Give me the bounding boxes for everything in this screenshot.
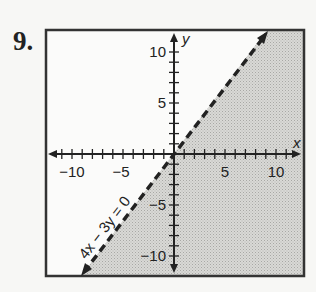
x-tick-label: 10: [268, 163, 285, 180]
inequality-graph: −10 −5 5 10 x: [0, 0, 316, 292]
y-tick-label: −10: [141, 247, 166, 264]
x-tick-label: −5: [112, 163, 129, 180]
x-axis-label: x: [292, 134, 301, 151]
x-tick-label: −10: [59, 163, 84, 180]
y-tick-label: −5: [149, 196, 166, 213]
x-tick-label: 5: [221, 163, 229, 180]
y-tick-label: 10: [149, 43, 166, 60]
y-tick-label: 5: [158, 94, 166, 111]
